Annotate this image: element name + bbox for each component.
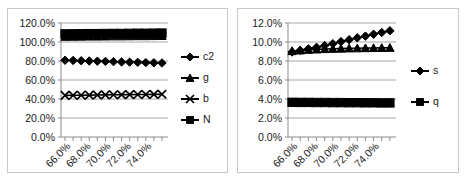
marker-diamond (345, 36, 353, 44)
x-axis-tick-labels: 66.0%68.0%70.0%72.0%74.0% (43, 140, 153, 170)
x-axis-tick-marks (292, 137, 390, 141)
legend-label-b: b (203, 92, 209, 104)
y-tick-label: 100.0% (19, 36, 55, 48)
y-tick-label: 8.0% (258, 55, 282, 67)
marker-square (117, 29, 125, 37)
marker-square (337, 98, 345, 106)
y-tick-label: 2.0% (258, 112, 282, 124)
marker-square (386, 99, 394, 107)
legend-item-b[interactable]: b (181, 92, 209, 104)
marker-square (134, 29, 142, 37)
right-chart-canvas: 0.0%2.0%4.0%6.0%8.0%10.0%12.0%66.0%68.0%… (238, 9, 458, 172)
marker-square (150, 29, 158, 37)
legend-label-g: g (203, 71, 209, 83)
marker-diamond (101, 57, 109, 65)
y-tick-label: 12.0% (252, 17, 282, 29)
series-group (61, 29, 166, 100)
x-axis-tick-labels: 66.0%68.0%70.0%72.0%74.0% (270, 140, 381, 170)
marker-diamond (85, 57, 93, 65)
marker-square (125, 29, 133, 37)
marker-square (417, 99, 424, 106)
marker-square (69, 30, 77, 38)
legend-label-N: N (203, 113, 211, 125)
y-tick-label: 0.0% (258, 131, 282, 143)
marker-diamond (117, 58, 125, 66)
legend-label-q: q (433, 95, 439, 107)
y-tick-label: 80.0% (25, 55, 55, 67)
marker-diamond (125, 58, 133, 66)
marker-square (101, 29, 109, 37)
marker-square (142, 29, 150, 37)
legend-marker-triangle (181, 74, 199, 81)
marker-square (304, 98, 312, 106)
marker-square (77, 30, 85, 38)
marker-square (85, 29, 93, 37)
marker-square (320, 98, 328, 106)
series-group (288, 27, 394, 108)
marker-square (369, 99, 377, 107)
left-chart-canvas: 0.0%20.0%40.0%60.0%80.0%100.0%120.0%66.0… (8, 9, 227, 172)
marker-diamond (386, 27, 394, 35)
marker-square (187, 117, 194, 124)
marker-square (109, 29, 117, 37)
legend-marker-square (411, 99, 429, 106)
marker-diamond (93, 57, 101, 65)
legend-marker-square (181, 117, 199, 124)
marker-diamond (361, 32, 369, 40)
legend-marker-diamond (411, 67, 429, 75)
marker-diamond (61, 56, 69, 64)
legend-marker-diamond (181, 53, 199, 61)
legend-item-c2[interactable]: c2 (181, 50, 214, 62)
legend: sq (411, 64, 439, 107)
marker-diamond (416, 67, 424, 75)
y-axis-tick-labels: 0.0%2.0%4.0%6.0%8.0%10.0%12.0% (252, 17, 282, 143)
series-q (288, 98, 394, 107)
series-N (61, 29, 166, 38)
marker-diamond (378, 28, 386, 36)
y-tick-label: 20.0% (25, 112, 55, 124)
marker-square (312, 98, 320, 106)
marker-diamond (150, 59, 158, 67)
marker-square (158, 29, 166, 37)
legend-item-q[interactable]: q (411, 95, 439, 107)
x-axis-tick-marks (65, 137, 162, 141)
y-tick-label: 4.0% (258, 93, 282, 105)
chart-panel-right: 0.0%2.0%4.0%6.0%8.0%10.0%12.0%66.0%68.0%… (237, 8, 459, 173)
chart-panel-left: 0.0%20.0%40.0%60.0%80.0%100.0%120.0%66.0… (7, 8, 228, 173)
figure-root: 0.0%20.0%40.0%60.0%80.0%100.0%120.0%66.0… (0, 0, 466, 183)
y-tick-label: 10.0% (252, 36, 282, 48)
legend: c2gbN (181, 50, 214, 125)
marker-diamond (69, 56, 77, 64)
marker-diamond (109, 57, 117, 65)
marker-square (378, 99, 386, 107)
marker-diamond (186, 53, 194, 61)
legend-item-g[interactable]: g (181, 71, 209, 83)
marker-diamond (142, 58, 150, 66)
marker-diamond (77, 57, 85, 65)
marker-square (296, 98, 304, 106)
y-axis-tick-labels: 0.0%20.0%40.0%60.0%80.0%100.0%120.0% (19, 17, 55, 143)
marker-square (345, 99, 353, 107)
y-tick-label: 40.0% (25, 93, 55, 105)
legend-label-s: s (433, 64, 438, 76)
y-tick-label: 60.0% (25, 74, 55, 86)
marker-diamond (134, 58, 142, 66)
y-tick-label: 0.0% (31, 131, 55, 143)
marker-diamond (158, 59, 166, 67)
marker-diamond (353, 34, 361, 42)
series-b (61, 90, 166, 100)
marker-square (329, 98, 337, 106)
legend-item-s[interactable]: s (411, 64, 438, 76)
marker-square (61, 30, 69, 38)
legend-label-c2: c2 (203, 50, 214, 62)
legend-marker-x (181, 95, 199, 103)
marker-diamond (369, 30, 377, 38)
marker-square (288, 98, 296, 106)
marker-square (361, 99, 369, 107)
y-tick-label: 6.0% (258, 74, 282, 86)
y-tick-label: 120.0% (19, 17, 55, 29)
series-c2 (61, 56, 166, 67)
marker-square (93, 29, 101, 37)
marker-square (353, 99, 361, 107)
legend-item-N[interactable]: N (181, 113, 211, 125)
